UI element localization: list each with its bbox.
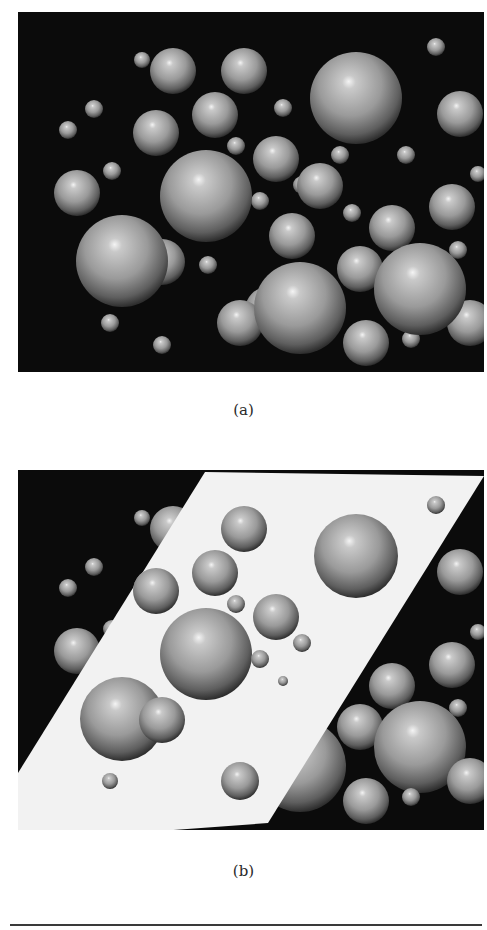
sphere: [269, 213, 315, 259]
sphere: [343, 320, 389, 366]
sphere: [429, 642, 475, 688]
sphere: [251, 192, 269, 210]
sphere: [221, 506, 267, 552]
sphere: [199, 256, 217, 274]
sphere: [369, 663, 415, 709]
sphere: [59, 121, 77, 139]
sphere: [402, 788, 420, 806]
sphere: [54, 170, 100, 216]
sphere: [297, 163, 343, 209]
sphere: [221, 762, 259, 800]
caption-b: (b): [0, 862, 487, 880]
sphere: [85, 558, 103, 576]
sphere: [192, 550, 238, 596]
sphere: [160, 150, 252, 242]
figure-panel-b: [18, 470, 484, 830]
sphere: [153, 336, 171, 354]
sphere: [437, 549, 483, 595]
sphere: [331, 146, 349, 164]
sphere: [310, 52, 402, 144]
sphere: [134, 510, 150, 526]
spheres-plane-render-b: [18, 470, 484, 830]
sphere: [274, 99, 292, 117]
sphere: [133, 568, 179, 614]
sphere: [253, 594, 299, 640]
sphere: [139, 697, 185, 743]
sphere: [85, 100, 103, 118]
sphere: [221, 48, 267, 94]
sphere: [429, 184, 475, 230]
spheres-render-a: [18, 12, 484, 372]
sphere: [343, 778, 389, 824]
sphere: [374, 243, 466, 335]
sphere: [134, 52, 150, 68]
sphere: [103, 162, 121, 180]
bottom-rule: [10, 924, 482, 926]
sphere: [293, 634, 311, 652]
sphere: [397, 146, 415, 164]
sphere: [251, 650, 269, 668]
caption-a: (a): [0, 401, 487, 419]
sphere: [102, 773, 118, 789]
sphere: [343, 204, 361, 222]
sphere: [253, 136, 299, 182]
sphere: [192, 92, 238, 138]
sphere: [427, 496, 445, 514]
sphere: [278, 676, 288, 686]
sphere: [227, 595, 245, 613]
sphere: [133, 110, 179, 156]
sphere: [470, 624, 484, 640]
sphere: [150, 48, 196, 94]
sphere: [369, 205, 415, 251]
sphere: [470, 166, 484, 182]
sphere: [254, 262, 346, 354]
sphere: [59, 579, 77, 597]
sphere: [76, 215, 168, 307]
sphere: [227, 137, 245, 155]
figure-panel-a: [18, 12, 484, 372]
sphere: [427, 38, 445, 56]
sphere: [160, 608, 252, 700]
sphere: [101, 314, 119, 332]
sphere: [314, 514, 398, 598]
sphere: [437, 91, 483, 137]
